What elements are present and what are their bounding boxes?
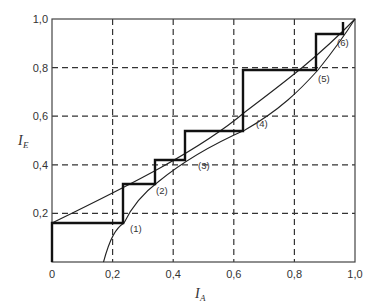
upper-curve — [52, 19, 355, 223]
stage-label-4: (4) — [256, 118, 268, 129]
y-axis-label: I E — [17, 133, 29, 150]
x-tick-0.6: 0,6 — [226, 268, 241, 280]
x-tick-0: 0 — [49, 268, 55, 280]
svg-text:A: A — [199, 293, 206, 303]
y-tick-0.2: 0,2 — [33, 207, 48, 219]
x-axis-label: I A — [194, 286, 206, 303]
stage-label-3: (3) — [198, 160, 210, 171]
stage-staircase — [52, 22, 343, 262]
stage-label-6: (6) — [337, 37, 349, 48]
plot-frame — [52, 19, 355, 262]
y-tick-0.8: 0,8 — [33, 62, 48, 74]
x-tick-0.8: 0,8 — [287, 268, 302, 280]
svg-text:E: E — [22, 140, 29, 150]
stage-label-1: (1) — [130, 223, 142, 234]
x-tick-0.2: 0,2 — [105, 268, 120, 280]
y-tick-1.0: 1,0 — [33, 13, 48, 25]
stage-label-5: (5) — [318, 73, 330, 84]
y-tick-0.6: 0,6 — [33, 110, 48, 122]
x-tick-labels: 0 0,2 0,4 0,6 0,8 1,0 — [49, 268, 363, 280]
y-tick-labels: 0,2 0,4 0,6 0,8 1,0 — [33, 13, 48, 219]
stage-diagram: (1) (2) (3) (4) (5) (6) 0 0,2 0,4 0,6 0,… — [0, 0, 373, 307]
stage-label-2: (2) — [156, 185, 168, 196]
grid — [52, 19, 355, 262]
x-tick-1.0: 1,0 — [347, 268, 362, 280]
y-tick-0.4: 0,4 — [33, 159, 48, 171]
x-tick-0.4: 0,4 — [166, 268, 181, 280]
